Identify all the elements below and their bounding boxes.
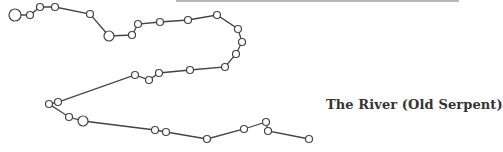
- river-node-4: [87, 11, 94, 18]
- river-node-12: [239, 39, 246, 46]
- river-node-17: [146, 77, 153, 84]
- river-node-13: [233, 51, 240, 58]
- river-node-23: [152, 127, 159, 134]
- river-node-10: [214, 12, 221, 19]
- river-node-8: [157, 19, 164, 26]
- river-node-19: [55, 99, 62, 106]
- river-node-15: [187, 67, 194, 74]
- river-nodes: [9, 4, 313, 143]
- river-node-9: [185, 17, 192, 24]
- river-node-6: [129, 32, 136, 39]
- river-node-22: [78, 116, 88, 126]
- river-node-29: [306, 136, 313, 143]
- river-node-28: [265, 128, 272, 135]
- river-node-5: [104, 31, 114, 41]
- river-node-11: [235, 26, 242, 33]
- river-node-3: [52, 4, 59, 11]
- river-node-1: [27, 12, 34, 19]
- river-node-27: [263, 119, 270, 126]
- river-node-21: [66, 114, 73, 121]
- river-node-7: [135, 21, 142, 28]
- river-node-26: [241, 126, 248, 133]
- river-node-25: [204, 136, 211, 143]
- river-node-0: [9, 9, 21, 21]
- diagram-title: The River (Old Serpent): [326, 97, 503, 112]
- river-node-16: [156, 70, 163, 77]
- river-node-14: [222, 64, 229, 71]
- river-node-2: [37, 4, 44, 11]
- river-node-20: [46, 101, 53, 108]
- river-node-18: [132, 72, 139, 79]
- river-node-24: [163, 129, 170, 136]
